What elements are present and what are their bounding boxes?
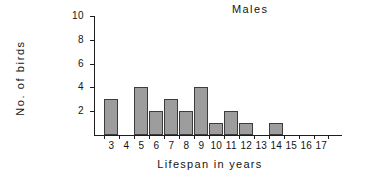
y-axis-tick: 6 [90,64,95,65]
y-axis-tick-label: 10 [72,10,84,21]
bar [164,99,178,135]
plot-area: 246810 34567891011121314151617 [94,16,342,135]
x-axis-tick [239,135,240,139]
x-axis-line [94,135,342,136]
bar [269,123,283,135]
x-axis-tick [284,135,285,139]
x-axis-tick [149,135,150,139]
x-axis-tick [224,135,225,139]
y-axis-title: No. of birds [14,18,26,138]
y-axis-tick: 8 [90,40,95,41]
x-axis-tick [209,135,210,139]
x-axis-tick [134,135,135,139]
chart-title: Males [232,3,268,15]
x-axis-title: Lifespan in years [0,158,368,170]
bar [134,87,148,135]
x-axis-tick [328,135,329,139]
bar [194,87,208,135]
x-axis-tick [104,135,105,139]
y-axis-line [94,16,95,135]
bar [179,111,193,135]
x-axis-tick [314,135,315,139]
x-axis-tick [269,135,270,139]
x-axis-title-text: Lifespan in years [157,158,262,170]
bar [224,111,238,135]
x-axis-tick [179,135,180,139]
x-axis-tick [164,135,165,139]
y-axis-tick-label: 6 [78,58,84,69]
y-axis-tick: 2 [90,111,95,112]
y-axis-tick-label: 8 [78,34,84,45]
y-axis-tick-label: 4 [78,81,84,92]
bar-chart: Males No. of birds 246810 34567891011121… [0,0,368,181]
y-axis-tick: 10 [90,16,95,17]
x-axis-tick [254,135,255,139]
bar [239,123,253,135]
x-axis-tick [119,135,120,139]
x-axis-tick [194,135,195,139]
y-axis-tick: 4 [90,87,95,88]
y-axis-tick-label: 2 [78,105,84,116]
x-axis-tick-label: 17 [311,140,331,151]
bar [209,123,223,135]
x-axis-tick [299,135,300,139]
bar [104,99,118,135]
bar [149,111,163,135]
